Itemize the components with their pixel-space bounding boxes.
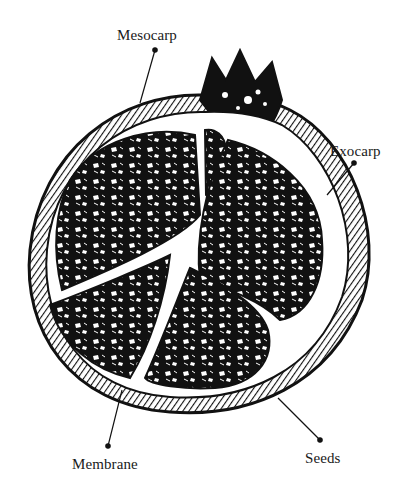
label-mesocarp: Mesocarp: [117, 27, 177, 44]
label-seeds: Seeds: [305, 450, 341, 467]
pomegranate-diagram: Mesocarp Exocarp Membrane Seeds: [0, 0, 414, 501]
pomegranate-illustration: [0, 0, 414, 501]
label-exocarp: Exocarp: [330, 143, 381, 160]
label-membrane: Membrane: [72, 456, 138, 473]
